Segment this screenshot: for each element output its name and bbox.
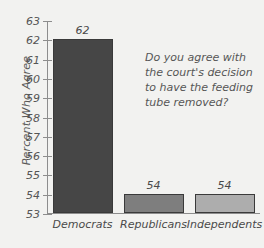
bar: 54 (195, 194, 255, 213)
question-annotation: Do you agree with the court's decision t… (145, 50, 263, 110)
annotation-line: Do you agree with (145, 50, 263, 65)
y-tick-mark (43, 118, 52, 119)
annotation-line: tube removed? (145, 95, 263, 110)
y-tick-label: 55 (26, 169, 40, 182)
bar: 62 (53, 39, 113, 213)
y-tick-label: 59 (26, 92, 40, 105)
y-tick-label: 61 (26, 53, 40, 66)
y-tick-mark (43, 214, 52, 215)
bar-value-label: 54 (147, 179, 161, 192)
x-axis-line (47, 213, 260, 214)
bar: 54 (124, 194, 184, 213)
y-tick-label: 58 (26, 111, 40, 124)
x-axis-label: Republicans (120, 218, 187, 231)
y-tick-label: 53 (26, 208, 40, 221)
annotation-line: the court's decision (145, 65, 263, 80)
y-tick-mark (43, 21, 52, 22)
y-tick-mark (43, 79, 52, 80)
annotation-line: to have the feeding (145, 80, 263, 95)
y-tick-mark (43, 137, 52, 138)
y-tick-label: 62 (26, 34, 40, 47)
bar-chart: Percent Who Agree 6362616059585756555453… (0, 0, 264, 248)
y-tick-label: 54 (26, 188, 40, 201)
y-tick-mark (43, 195, 52, 196)
y-tick-label: 57 (26, 130, 40, 143)
y-tick-mark (43, 40, 52, 41)
x-axis-label: Democrats (52, 218, 112, 231)
y-tick-mark (43, 98, 52, 99)
x-axis-label: Independents (187, 218, 262, 231)
y-tick-mark (43, 156, 52, 157)
bar-value-label: 54 (218, 179, 232, 192)
bar-value-label: 62 (76, 24, 90, 37)
y-tick-label: 60 (26, 72, 40, 85)
y-tick-mark (43, 60, 52, 61)
y-tick-label: 56 (26, 150, 40, 163)
y-tick-mark (43, 175, 52, 176)
y-tick-label: 63 (26, 15, 40, 28)
